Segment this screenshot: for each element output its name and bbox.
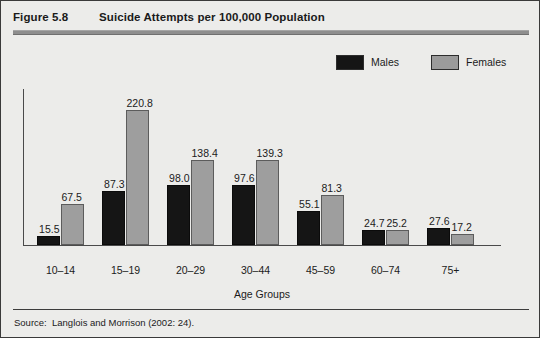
x-tick-label-30–44: 30–44 — [221, 264, 291, 276]
bar-value-label: 138.4 — [192, 147, 238, 161]
x-axis-line — [23, 245, 501, 246]
bar-males-20–29: 98.0 — [167, 185, 190, 245]
source-divider-rule — [13, 309, 529, 310]
bar-value-label: 67.5 — [62, 191, 108, 205]
bar-males-15–19: 87.3 — [102, 191, 125, 245]
bar-males-10–14: 15.5 — [37, 236, 60, 246]
bar-group: 97.6139.3 — [232, 89, 279, 245]
legend-item-males: Males — [336, 53, 399, 71]
bar-value-label: 24.7 — [339, 217, 385, 231]
bar-group: 55.181.3 — [297, 89, 344, 245]
bar-value-label: 87.3 — [79, 178, 125, 192]
plot-area: 15.567.587.3220.898.0138.497.6139.355.18… — [23, 89, 501, 246]
figure-heading: Figure 5.8 Suicide Attempts per 100,000 … — [13, 9, 529, 25]
bar-value-label: 81.3 — [322, 182, 368, 196]
bar-group: 24.725.2 — [362, 89, 409, 245]
legend-label-males: Males — [371, 56, 399, 68]
figure-container: Figure 5.8 Suicide Attempts per 100,000 … — [0, 0, 540, 338]
x-tick-label-20–29: 20–29 — [156, 264, 226, 276]
legend-item-females: Females — [431, 53, 506, 71]
x-tick-label-60–74: 60–74 — [351, 264, 421, 276]
bar-value-label: 220.8 — [127, 97, 173, 111]
chart-legend: Males Females — [331, 53, 531, 71]
bar-group: 98.0138.4 — [167, 89, 214, 245]
bar-value-label: 27.6 — [404, 215, 450, 229]
x-tick-label-15–19: 15–19 — [91, 264, 161, 276]
title-divider-rule — [13, 30, 529, 35]
x-axis-tick-labels: 10–1415–1920–2930–4445–5960–7475+ — [23, 264, 501, 280]
x-tick-label-45–59: 45–59 — [286, 264, 356, 276]
bar-males-60–74: 24.7 — [362, 230, 385, 245]
figure-number: Figure 5.8 — [13, 11, 99, 23]
legend-swatch-males-icon — [336, 55, 364, 70]
bar-males-30–44: 97.6 — [232, 185, 255, 245]
bar-males-45–59: 55.1 — [297, 211, 320, 245]
bar-group: 27.617.2 — [427, 89, 474, 245]
bar-value-label: 98.0 — [144, 172, 190, 186]
x-tick-label-75+: 75+ — [416, 264, 486, 276]
bar-value-label: 17.2 — [452, 221, 498, 235]
bar-females-60–74: 25.2 — [386, 230, 409, 245]
bar-value-label: 15.5 — [14, 223, 60, 237]
bar-females-10–14: 67.5 — [61, 204, 84, 245]
x-axis-title: Age Groups — [23, 288, 501, 300]
legend-label-females: Females — [466, 56, 506, 68]
bar-value-label: 97.6 — [209, 172, 255, 186]
x-tick-label-10–14: 10–14 — [26, 264, 96, 276]
bar-group: 15.567.5 — [37, 89, 84, 245]
bar-value-label: 55.1 — [274, 198, 320, 212]
bar-females-75+: 17.2 — [451, 234, 474, 245]
source-note: Source: Langlois and Morrison (2002: 24)… — [14, 317, 194, 328]
bar-value-label: 139.3 — [257, 147, 303, 161]
legend-swatch-females-icon — [431, 55, 459, 70]
figure-title: Suicide Attempts per 100,000 Population — [99, 11, 325, 23]
bar-group: 87.3220.8 — [102, 89, 149, 245]
bar-males-75+: 27.6 — [427, 228, 450, 245]
